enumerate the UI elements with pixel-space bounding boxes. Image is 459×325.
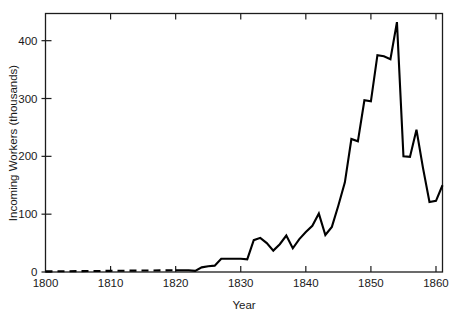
chart-figure: 1800181018201830184018501860 01002003004…	[0, 0, 459, 325]
x-tick-label: 1860	[423, 277, 449, 289]
line-chart: 1800181018201830184018501860 01002003004…	[0, 0, 459, 325]
y-tick-label: 300	[18, 93, 37, 105]
x-tick-label: 1830	[228, 277, 254, 289]
x-axis-title: Year	[232, 299, 255, 311]
x-tick-label: 1820	[163, 277, 189, 289]
y-tick-label: 200	[18, 150, 37, 162]
y-tick-label: 100	[18, 208, 37, 220]
x-tick-labels: 1800181018201830184018501860	[33, 277, 449, 289]
x-tick-label: 1800	[33, 277, 59, 289]
y-axis-title: Incoming Workers (thousands)	[7, 65, 19, 222]
x-tick-label: 1840	[293, 277, 319, 289]
data-series-estimated	[46, 270, 176, 271]
y-tick-label: 0	[31, 266, 37, 278]
data-series-recorded	[176, 22, 443, 271]
x-tick-label: 1810	[98, 277, 124, 289]
axis-ticks	[42, 14, 436, 273]
plot-frame	[46, 14, 443, 273]
x-tick-label: 1850	[358, 277, 384, 289]
y-tick-label: 400	[18, 35, 37, 47]
y-tick-labels: 0100200300400	[18, 35, 37, 278]
